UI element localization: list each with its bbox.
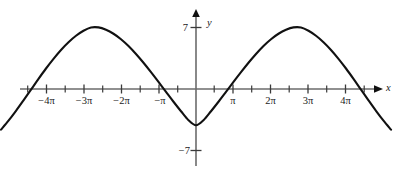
y-axis-name-label: y <box>207 18 212 29</box>
graph-figure: −4π −3π −2π −π π 2π 3π 4π 7 −7 x y <box>0 0 399 177</box>
x-tick-label-neg-pi: −π <box>154 96 165 107</box>
x-axis-arrow-icon <box>374 85 383 93</box>
x-tick-label-neg-2pi: −2π <box>113 96 129 107</box>
x-tick-label-pi: π <box>230 96 235 107</box>
x-tick-label-3pi: 3π <box>303 96 314 107</box>
x-axis-name-label: x <box>386 83 391 94</box>
x-tick-label-4pi: 4π <box>340 96 351 107</box>
y-value-label-positive-seven: 7 <box>183 23 188 34</box>
y-axis-arrow-icon <box>192 9 200 17</box>
x-tick-label-neg-4pi: −4π <box>38 96 54 107</box>
x-tick-label-2pi: 2π <box>265 96 276 107</box>
x-tick-label-neg-3pi: −3π <box>76 96 92 107</box>
coordinate-plane <box>0 0 399 177</box>
y-value-label-negative-seven: −7 <box>179 146 190 157</box>
